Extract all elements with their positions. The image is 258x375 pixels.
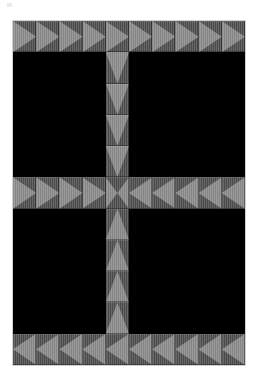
triangle-right-icon: [59, 21, 82, 52]
void-cell: [59, 115, 82, 146]
quilt-block-down-pointing-triangle: [106, 84, 129, 115]
quilt-grid: [13, 21, 245, 365]
quilt-block-left-pointing-triangle: [106, 334, 129, 365]
triangle-left-icon: [83, 334, 106, 365]
void-cell: [152, 115, 175, 146]
void-cell: [36, 271, 59, 302]
void-cell: [13, 271, 36, 302]
quilt-block-left-pointing-triangle: [222, 334, 245, 365]
void-cell: [222, 115, 245, 146]
void-cell: [222, 302, 245, 333]
triangle-up-icon: [106, 240, 129, 271]
void-cell: [222, 271, 245, 302]
void-cell: [222, 240, 245, 271]
void-cell: [83, 240, 106, 271]
void-cell: [36, 209, 59, 240]
void-cell: [175, 52, 198, 83]
quilt-block-left-pointing-triangle: [152, 177, 175, 208]
void-cell: [129, 209, 152, 240]
quilt-block-up-pointing-triangle: [106, 271, 129, 302]
triangle-left-icon: [222, 177, 245, 208]
quilt-block-right-pointing-triangle: [106, 21, 129, 52]
triangle-left-icon: [199, 177, 222, 208]
void-cell: [13, 240, 36, 271]
void-cell: [129, 115, 152, 146]
void-cell: [13, 84, 36, 115]
void-cell: [175, 115, 198, 146]
void-cell: [59, 271, 82, 302]
triangle-up-icon: [106, 209, 129, 240]
quilt-block-left-pointing-triangle: [59, 334, 82, 365]
void-cell: [59, 84, 82, 115]
quilt-block-left-pointing-triangle: [199, 334, 222, 365]
triangle-right-icon: [13, 177, 36, 208]
quilt-block-down-pointing-triangle: [106, 115, 129, 146]
quilt-block-right-pointing-triangle: [13, 177, 36, 208]
void-cell: [222, 146, 245, 177]
void-cell: [175, 240, 198, 271]
void-cell: [83, 84, 106, 115]
triangle-up-icon: [106, 302, 129, 333]
void-cell: [199, 302, 222, 333]
triangle-right-icon: [13, 21, 36, 52]
quilt-block-right-pointing-triangle: [222, 21, 245, 52]
triangle-left-icon: [175, 334, 198, 365]
void-cell: [222, 52, 245, 83]
void-cell: [199, 52, 222, 83]
quilt-block-right-pointing-triangle: [36, 21, 59, 52]
triangle-left-icon: [129, 334, 152, 365]
triangle-right-icon: [175, 21, 198, 52]
quilt-block-double-triangle-x: [106, 177, 129, 208]
void-cell: [129, 302, 152, 333]
quilt-block-left-pointing-triangle: [13, 334, 36, 365]
quilt-block-up-pointing-triangle: [106, 209, 129, 240]
void-cell: [152, 146, 175, 177]
void-cell: [59, 209, 82, 240]
void-cell: [83, 302, 106, 333]
triangle-right-icon: [222, 21, 245, 52]
void-cell: [36, 52, 59, 83]
void-cell: [13, 115, 36, 146]
void-cell: [59, 52, 82, 83]
triangle-right-icon: [36, 177, 59, 208]
triangle-up-icon: [106, 271, 129, 302]
void-cell: [83, 146, 106, 177]
corner-speck-artifact: [7, 3, 12, 7]
quilt-block-left-pointing-triangle: [175, 334, 198, 365]
triangle-right-icon: [106, 21, 129, 52]
void-cell: [129, 271, 152, 302]
quilt-block-left-pointing-triangle: [83, 334, 106, 365]
quilt-block-left-pointing-triangle: [152, 334, 175, 365]
void-cell: [152, 52, 175, 83]
void-cell: [199, 209, 222, 240]
quilt-block-right-pointing-triangle: [36, 177, 59, 208]
quilt-block-left-pointing-triangle: [199, 177, 222, 208]
void-cell: [59, 302, 82, 333]
void-cell: [175, 302, 198, 333]
void-cell: [199, 115, 222, 146]
quilt-block-right-pointing-triangle: [175, 21, 198, 52]
triangle-left-icon: [175, 177, 198, 208]
triangle-left-icon: [199, 334, 222, 365]
quilt-block-down-pointing-triangle: [106, 146, 129, 177]
void-cell: [36, 146, 59, 177]
quilt-block-left-pointing-triangle: [36, 334, 59, 365]
quilt-block-right-pointing-triangle: [59, 21, 82, 52]
triangle-right-icon: [83, 21, 106, 52]
triangle-right-icon: [36, 21, 59, 52]
triangle-right-icon: [59, 177, 82, 208]
triangle-down-icon: [106, 52, 129, 83]
void-cell: [199, 271, 222, 302]
quilt-block-up-pointing-triangle: [106, 302, 129, 333]
void-cell: [13, 52, 36, 83]
void-cell: [175, 146, 198, 177]
void-cell: [36, 84, 59, 115]
triangle-right-icon: [199, 21, 222, 52]
quilt-block-right-pointing-triangle: [199, 21, 222, 52]
void-cell: [152, 302, 175, 333]
triangle-left-icon: [152, 177, 175, 208]
void-cell: [83, 52, 106, 83]
void-cell: [129, 84, 152, 115]
quilt-block-up-pointing-triangle: [106, 240, 129, 271]
void-cell: [199, 240, 222, 271]
